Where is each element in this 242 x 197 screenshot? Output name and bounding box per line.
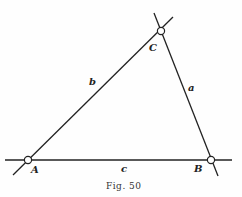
vertex-b-marker [207,156,214,163]
side-a-line [154,13,218,176]
triangle-figure: A B C a b c Fig. 50 [0,0,242,197]
vertex-a-marker [24,156,31,163]
vertex-c-marker [157,27,164,34]
vertex-b-label: B [193,163,202,174]
side-b-line [13,17,173,175]
figure-caption: Fig. 50 [106,181,142,191]
vertex-a-label: A [30,164,39,175]
side-b-label: b [89,76,96,87]
side-a-label: a [188,82,194,93]
triangle-diagram: A B C a b c Fig. 50 [0,0,242,197]
vertex-c-label: C [149,42,157,53]
side-c-label: c [121,163,127,174]
